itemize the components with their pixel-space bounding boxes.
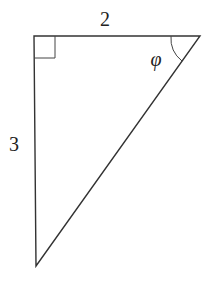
triangle-diagram: 2 3 φ xyxy=(0,0,222,283)
left-side-label: 3 xyxy=(9,133,19,155)
angle-arc xyxy=(171,36,182,61)
top-side-label: 2 xyxy=(100,8,110,30)
triangle xyxy=(34,36,200,266)
right-angle-marker xyxy=(34,36,55,58)
angle-label: φ xyxy=(150,48,161,71)
